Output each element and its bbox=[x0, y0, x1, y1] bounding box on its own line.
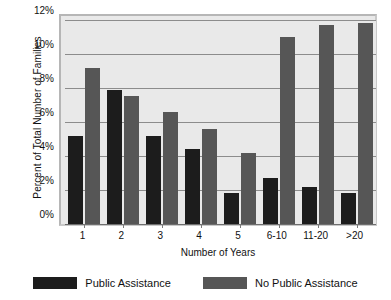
bar bbox=[124, 96, 139, 224]
legend-item[interactable]: No Public Assistance bbox=[203, 277, 358, 289]
gridline-0% bbox=[65, 224, 376, 225]
y-tick-label: 12% bbox=[34, 6, 54, 16]
bar bbox=[163, 112, 178, 224]
bar bbox=[280, 37, 295, 224]
bar-group bbox=[302, 20, 334, 224]
plot-area bbox=[59, 14, 377, 226]
x-tick-mark bbox=[201, 224, 202, 228]
chart-legend: Public AssistanceNo Public Assistance bbox=[0, 273, 391, 293]
y-axis-tick-labels: 0%2%4%6%8%10%12% bbox=[18, 11, 54, 222]
bars-layer bbox=[65, 20, 376, 224]
bar bbox=[224, 193, 239, 224]
x-tick-mark bbox=[279, 224, 280, 228]
bar bbox=[107, 90, 122, 224]
x-tick-mark bbox=[357, 224, 358, 228]
bar bbox=[358, 23, 373, 224]
x-tick-mark bbox=[318, 224, 319, 228]
x-tick-label: 3 bbox=[157, 230, 163, 241]
bar-chart: Percent of Total Number of Families 0%2%… bbox=[0, 0, 391, 300]
legend-swatch-icon bbox=[203, 277, 247, 289]
x-axis-tick-labels: 123456-1011-20>20 bbox=[59, 230, 377, 244]
y-tick-label: 6% bbox=[40, 108, 54, 118]
x-tick-mark bbox=[84, 224, 85, 228]
y-tick-label: 8% bbox=[40, 74, 54, 84]
bar bbox=[241, 153, 256, 224]
legend-item[interactable]: Public Assistance bbox=[33, 277, 171, 289]
bar-group bbox=[224, 20, 256, 224]
bar bbox=[319, 25, 334, 224]
plot-inner bbox=[65, 20, 376, 224]
y-tick-label: 2% bbox=[40, 176, 54, 186]
y-tick-label: 4% bbox=[40, 142, 54, 152]
bar bbox=[341, 193, 356, 224]
bar bbox=[185, 149, 200, 224]
bar-group bbox=[68, 20, 100, 224]
bar-group bbox=[341, 20, 373, 224]
bar-group bbox=[107, 20, 139, 224]
legend-swatch-icon bbox=[33, 277, 77, 289]
x-tick-mark bbox=[240, 224, 241, 228]
bar bbox=[263, 178, 278, 224]
bar-group bbox=[146, 20, 178, 224]
x-tick-label: 11-20 bbox=[303, 230, 328, 241]
x-tick-label: 4 bbox=[196, 230, 202, 241]
x-tick-label: 1 bbox=[80, 230, 86, 241]
x-tick-label: 5 bbox=[235, 230, 241, 241]
bar bbox=[68, 136, 83, 224]
x-tick-label: >20 bbox=[346, 230, 363, 241]
bar bbox=[302, 187, 317, 224]
bar bbox=[85, 68, 100, 224]
y-tick-label: 0% bbox=[40, 210, 54, 220]
x-axis-title: Number of Years bbox=[59, 247, 377, 258]
bar-group bbox=[263, 20, 295, 224]
x-tick-mark bbox=[162, 224, 163, 228]
bar bbox=[202, 129, 217, 224]
legend-label: Public Assistance bbox=[85, 277, 171, 289]
x-tick-label: 2 bbox=[119, 230, 125, 241]
x-tick-label: 6-10 bbox=[267, 230, 287, 241]
y-tick-label: 10% bbox=[34, 40, 54, 50]
x-tick-mark bbox=[123, 224, 124, 228]
bar bbox=[146, 136, 161, 224]
legend-label: No Public Assistance bbox=[255, 277, 358, 289]
bar-group bbox=[185, 20, 217, 224]
